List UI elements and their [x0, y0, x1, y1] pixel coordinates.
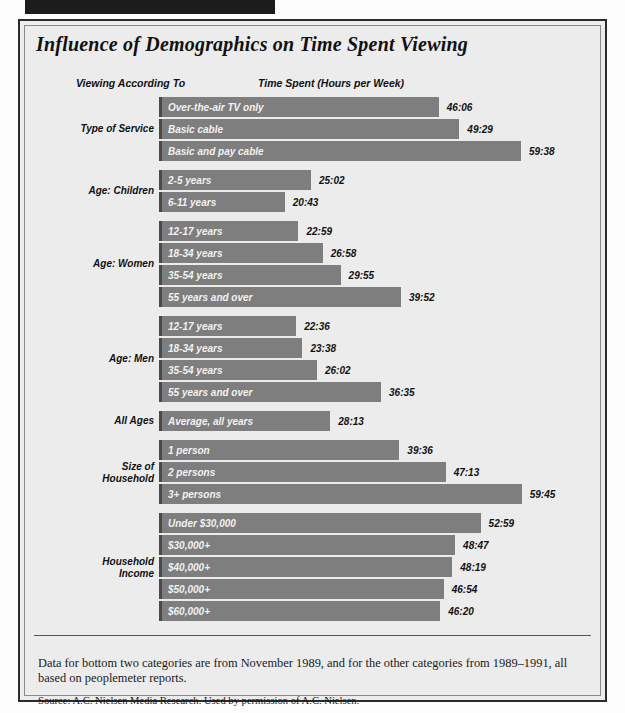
- bar-group: Type of ServiceOver-the-air TV only46:06…: [20, 97, 605, 161]
- bar-value-label: 48:19: [452, 562, 486, 573]
- bar: $30,000+: [159, 535, 455, 555]
- bar-value-label: 47:13: [446, 467, 480, 478]
- bar: 12-17 years: [159, 316, 296, 336]
- footnote-text: Data for bottom two categories are from …: [38, 656, 583, 686]
- bar-group: HouseholdIncomeUnder $30,00052:59$30,000…: [20, 513, 605, 621]
- bar-value-label: 59:45: [522, 489, 556, 500]
- bar-row: $30,000+48:47: [159, 535, 605, 555]
- bar-row: 2-5 years25:02: [159, 170, 605, 190]
- bar-value-label: 39:52: [401, 292, 435, 303]
- bar-category-label: 2-5 years: [162, 175, 211, 186]
- bar-category-label: Over-the-air TV only: [162, 102, 264, 113]
- bar-row: Average, all years28:13: [159, 411, 605, 431]
- bar-row: $50,000+46:54: [159, 579, 605, 599]
- bar-value-label: 52:59: [481, 518, 515, 529]
- bar-category-label: 2 persons: [162, 467, 215, 478]
- bar-value-label: 46:20: [440, 606, 474, 617]
- bar-value-label: 46:06: [439, 102, 473, 113]
- bar-category-label: Average, all years: [162, 416, 253, 427]
- bar-value-label: 59:38: [521, 146, 555, 157]
- bar-category-label: 55 years and over: [162, 292, 253, 303]
- bar: 2-5 years: [159, 170, 311, 190]
- bar-row: 55 years and over39:52: [159, 287, 605, 307]
- bar-group-rows: 12-17 years22:3618-34 years23:3835-54 ye…: [159, 316, 605, 402]
- bar-group-label: Type of Service: [20, 123, 154, 135]
- bar-group: Age: Women12-17 years22:5918-34 years26:…: [20, 221, 605, 307]
- bar-category-label: Basic cable: [162, 124, 223, 135]
- bar-category-label: $40,000+: [162, 562, 210, 573]
- figure-page: Influence of Demographics on Time Spent …: [0, 0, 625, 713]
- bar-group-label: Age: Women: [20, 258, 154, 270]
- bar: Basic and pay cable: [159, 141, 521, 161]
- bar-category-label: 1 person: [162, 445, 210, 456]
- bar-category-label: Under $30,000: [162, 518, 236, 529]
- bar: 35-54 years: [159, 360, 317, 380]
- bar: $60,000+: [159, 601, 440, 621]
- bar-category-label: $60,000+: [162, 606, 210, 617]
- bar-value-label: 22:59: [298, 226, 332, 237]
- source-credit: Source: A.C. Nielsen Media Research. Use…: [38, 694, 583, 707]
- bar-row: 18-34 years26:58: [159, 243, 605, 263]
- page-header-black-bar: [25, 0, 275, 14]
- bar-value-label: 29:55: [341, 270, 375, 281]
- bar-category-label: $50,000+: [162, 584, 210, 595]
- bar-row: 1 person39:36: [159, 440, 605, 460]
- bar-group-label: Age: Children: [20, 185, 154, 197]
- bar-value-label: 46:54: [444, 584, 478, 595]
- bar-category-label: 35-54 years: [162, 270, 223, 281]
- bar: 6-11 years: [159, 192, 285, 212]
- bar: 55 years and over: [159, 382, 381, 402]
- bar-group-rows: 12-17 years22:5918-34 years26:5835-54 ye…: [159, 221, 605, 307]
- column-header-right: Time Spent (Hours per Week): [258, 77, 404, 89]
- footnote-divider: [34, 635, 591, 636]
- bar: 35-54 years: [159, 265, 341, 285]
- bar-category-label: 35-54 years: [162, 365, 223, 376]
- bar-row: Over-the-air TV only46:06: [159, 97, 605, 117]
- column-header-left: Viewing According To: [76, 77, 185, 89]
- bar-group-rows: Over-the-air TV only46:06Basic cable49:2…: [159, 97, 605, 161]
- bar-row: Under $30,00052:59: [159, 513, 605, 533]
- bar-value-label: 48:47: [455, 540, 489, 551]
- bar-category-label: Basic and pay cable: [162, 146, 264, 157]
- bar-category-label: 3+ persons: [162, 489, 221, 500]
- bar-group: All AgesAverage, all years28:13: [20, 411, 605, 431]
- bar: Under $30,000: [159, 513, 481, 533]
- bar-value-label: 22:36: [296, 321, 330, 332]
- bar-group-label: All Ages: [20, 415, 154, 427]
- bar: Basic cable: [159, 119, 459, 139]
- bar: 12-17 years: [159, 221, 298, 241]
- bar-row: Basic and pay cable59:38: [159, 141, 605, 161]
- bar: 3+ persons: [159, 484, 522, 504]
- bar-row: 12-17 years22:36: [159, 316, 605, 336]
- bar-group: Age: Men12-17 years22:3618-34 years23:38…: [20, 316, 605, 402]
- bar-group-label: Age: Men: [20, 353, 154, 365]
- bar-row: 12-17 years22:59: [159, 221, 605, 241]
- bar-category-label: 18-34 years: [162, 343, 223, 354]
- bar: 2 persons: [159, 462, 446, 482]
- bar: 18-34 years: [159, 243, 323, 263]
- bar-row: 2 persons47:13: [159, 462, 605, 482]
- bar-category-label: 6-11 years: [162, 197, 216, 208]
- bar: $40,000+: [159, 557, 452, 577]
- bar-value-label: 39:36: [399, 445, 433, 456]
- bar: 1 person: [159, 440, 399, 460]
- bar: 18-34 years: [159, 338, 302, 358]
- bar: $50,000+: [159, 579, 444, 599]
- bar-group-label: HouseholdIncome: [20, 556, 154, 579]
- bar-category-label: 12-17 years: [162, 226, 223, 237]
- bar-chart-plot-area: Type of ServiceOver-the-air TV only46:06…: [20, 97, 605, 621]
- bar-value-label: 25:02: [311, 175, 345, 186]
- bar-category-label: $30,000+: [162, 540, 210, 551]
- bar-group-rows: 1 person39:362 persons47:133+ persons59:…: [159, 440, 605, 504]
- bar-value-label: 23:38: [302, 343, 336, 354]
- bar-row: $40,000+48:19: [159, 557, 605, 577]
- chart-figure-frame: Influence of Demographics on Time Spent …: [18, 19, 607, 702]
- page-title: Influence of Demographics on Time Spent …: [36, 33, 468, 56]
- bar-group-rows: Under $30,00052:59$30,000+48:47$40,000+4…: [159, 513, 605, 621]
- bar-row: 35-54 years26:02: [159, 360, 605, 380]
- bar-group-label: Size ofHousehold: [20, 461, 154, 484]
- bar-group: Size ofHousehold1 person39:362 persons47…: [20, 440, 605, 504]
- bar-value-label: 28:13: [330, 416, 364, 427]
- bar-row: $60,000+46:20: [159, 601, 605, 621]
- bar-value-label: 49:29: [459, 124, 493, 135]
